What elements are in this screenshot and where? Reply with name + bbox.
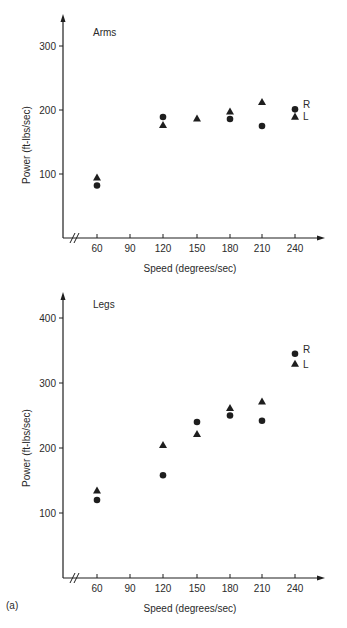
- data-point-triangle-icon: [291, 113, 299, 120]
- data-point-triangle-icon: [93, 486, 101, 493]
- x-axis-title: Speed (degrees/sec): [144, 603, 237, 614]
- y-tick-label: 200: [39, 443, 56, 454]
- x-tick-label: 90: [124, 583, 136, 594]
- data-point-triangle-icon: [159, 121, 167, 128]
- legend-label-l: L: [303, 359, 309, 370]
- y-tick-label: 300: [39, 41, 56, 52]
- data-point-triangle-icon: [193, 430, 201, 437]
- y-axis-title: Power (ft-lbs/sec): [21, 409, 32, 487]
- data-point-triangle-icon: [159, 441, 167, 448]
- chart-legs: 6090120150180210240100200300400LegsPower…: [21, 292, 325, 614]
- x-tick-label: 60: [91, 583, 103, 594]
- x-axis-title: Speed (degrees/sec): [144, 263, 237, 274]
- x-tick-label: 210: [254, 583, 271, 594]
- x-tick-label: 150: [189, 243, 206, 254]
- y-tick-label: 300: [39, 378, 56, 389]
- data-point-triangle-icon: [258, 397, 266, 404]
- x-tick-label: 120: [155, 243, 172, 254]
- data-point-circle-icon: [194, 419, 201, 426]
- chart-arms: 6090120150180210240100200300ArmsPower (f…: [21, 14, 325, 274]
- y-tick-label: 100: [39, 169, 56, 180]
- legend-label-l: L: [303, 111, 309, 122]
- y-axis-title: Power (ft-lbs/sec): [21, 106, 32, 184]
- data-point-circle-icon: [160, 472, 167, 479]
- panel-title: Legs: [93, 299, 115, 310]
- x-tick-label: 240: [287, 583, 304, 594]
- figure: 6090120150180210240100200300ArmsPower (f…: [0, 0, 347, 628]
- data-point-circle-icon: [227, 412, 234, 419]
- data-point-triangle-icon: [226, 107, 234, 114]
- figure-label: (a): [6, 600, 18, 611]
- data-point-circle-icon: [94, 182, 101, 189]
- x-tick-label: 150: [189, 583, 206, 594]
- data-point-triangle-icon: [258, 98, 266, 105]
- x-tick-label: 180: [222, 583, 239, 594]
- y-tick-label: 200: [39, 105, 56, 116]
- x-tick-label: 90: [124, 243, 136, 254]
- y-tick-label: 100: [39, 508, 56, 519]
- legend-label-r: R: [303, 99, 310, 110]
- panel-title: Arms: [93, 27, 116, 38]
- x-axis-arrow-icon: [317, 576, 325, 581]
- y-tick-label: 400: [39, 313, 56, 324]
- data-point-circle-icon: [259, 123, 266, 130]
- y-axis-arrow-icon: [61, 292, 66, 300]
- x-tick-label: 180: [222, 243, 239, 254]
- data-point-circle-icon: [160, 114, 167, 121]
- y-axis-arrow-icon: [61, 14, 66, 22]
- x-tick-label: 120: [155, 583, 172, 594]
- data-point-circle-icon: [292, 350, 299, 357]
- x-axis-arrow-icon: [317, 236, 325, 241]
- data-point-circle-icon: [227, 116, 234, 123]
- data-point-triangle-icon: [226, 404, 234, 411]
- data-point-circle-icon: [292, 106, 299, 113]
- x-tick-label: 210: [254, 243, 271, 254]
- data-point-circle-icon: [94, 497, 101, 504]
- data-point-triangle-icon: [291, 360, 299, 367]
- data-point-triangle-icon: [193, 115, 201, 122]
- x-tick-label: 240: [287, 243, 304, 254]
- data-point-circle-icon: [259, 417, 266, 424]
- legend-label-r: R: [303, 344, 310, 355]
- x-tick-label: 60: [91, 243, 103, 254]
- data-point-triangle-icon: [93, 173, 101, 180]
